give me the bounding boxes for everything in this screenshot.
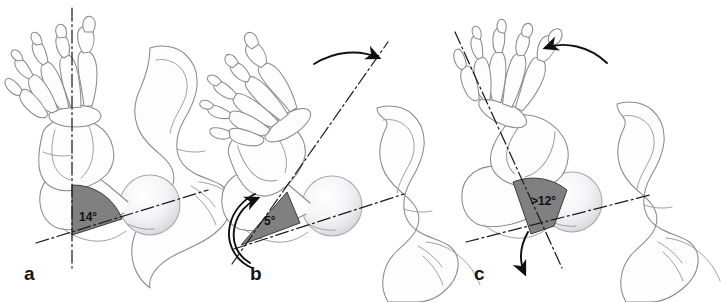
femoral-head-b <box>302 176 362 236</box>
panel-letter-c: c <box>474 263 485 284</box>
anteversion-figure: .bone{fill:#fdfdfd;stroke:#8a8a90;stroke… <box>0 0 721 302</box>
panel-letter-b: b <box>250 263 262 284</box>
angle-label-c: >12° <box>531 194 556 208</box>
angle-label-b: 5° <box>264 214 276 228</box>
angle-label-a: 14° <box>79 210 97 224</box>
femoral-head-a <box>120 175 180 235</box>
panel-letter-a: a <box>24 263 35 284</box>
